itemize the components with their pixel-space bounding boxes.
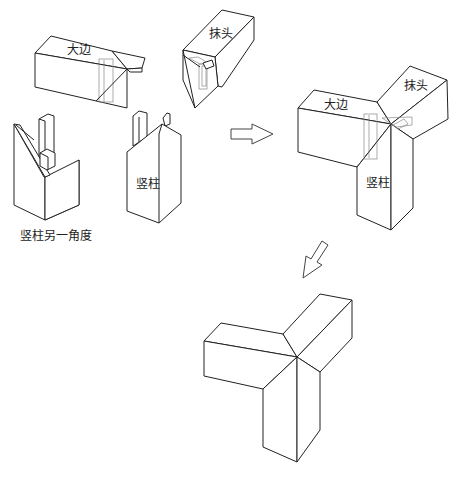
label-shuzhu: 竖柱	[136, 178, 160, 190]
label-shuzhu-alt-angle: 竖柱另一角度	[20, 230, 92, 242]
finished-joint	[204, 294, 352, 462]
label-assembled-shuzhu: 竖柱	[366, 177, 390, 189]
label-dabian: 大边	[67, 44, 91, 56]
label-motou: 抹头	[209, 28, 233, 40]
arrow-down-left-icon	[303, 241, 328, 278]
shuzhu-part	[127, 111, 181, 223]
motou-part	[183, 10, 254, 108]
shuzhu-alt-part	[14, 114, 79, 220]
label-assembled-dabian: 大边	[324, 99, 348, 111]
arrow-right-icon	[231, 124, 273, 144]
label-assembled-motou: 抹头	[404, 80, 428, 92]
